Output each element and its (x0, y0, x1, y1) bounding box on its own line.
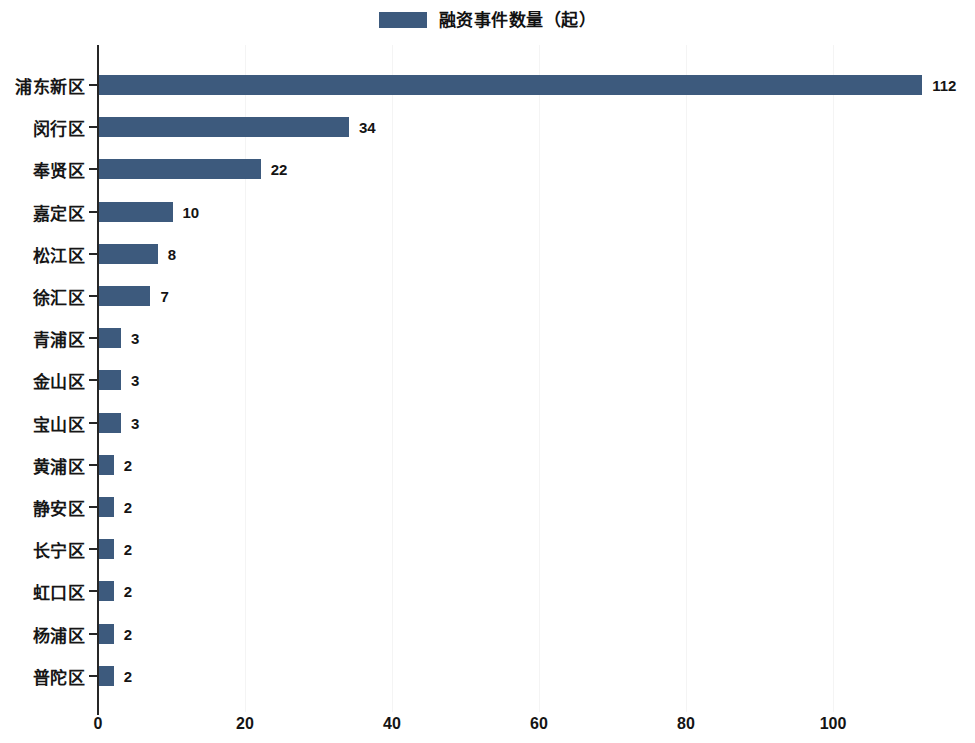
bar-row: 虹口区2 (0, 570, 975, 612)
bar[interactable] (99, 497, 114, 517)
bar-row: 静安区2 (0, 486, 975, 528)
y-axis-tick (89, 84, 97, 86)
bar[interactable] (99, 581, 114, 601)
x-axis-tick-label: 0 (94, 715, 103, 733)
bar[interactable] (99, 286, 150, 306)
y-axis-tick (89, 168, 97, 170)
y-axis-tick (89, 675, 97, 677)
category-label: 杨浦区 (33, 621, 86, 646)
x-axis-tick (97, 706, 99, 715)
bar[interactable] (99, 455, 114, 475)
bar-value-label: 3 (131, 330, 139, 347)
category-label: 金山区 (33, 368, 86, 393)
bar[interactable] (99, 159, 261, 179)
plot-area: 浦东新区112闵行区34奉贤区22嘉定区10松江区8徐汇区7青浦区3金山区3宝山… (0, 0, 975, 743)
y-axis-tick (89, 506, 97, 508)
bar[interactable] (99, 75, 922, 95)
category-label: 黄浦区 (33, 452, 86, 477)
bar[interactable] (99, 370, 121, 390)
bar-value-label: 10 (183, 203, 200, 220)
category-label: 嘉定区 (33, 199, 86, 224)
bar-value-label: 2 (124, 499, 132, 516)
bar-value-label: 112 (932, 77, 956, 94)
bar-row: 杨浦区2 (0, 613, 975, 655)
category-label: 闵行区 (33, 115, 86, 140)
category-label: 宝山区 (33, 410, 86, 435)
bar-value-label: 2 (124, 667, 132, 684)
bar-row: 徐汇区7 (0, 275, 975, 317)
bar-value-label: 22 (271, 161, 288, 178)
bar-row: 嘉定区10 (0, 191, 975, 233)
y-axis-tick (89, 253, 97, 255)
bar-row: 奉贤区22 (0, 148, 975, 190)
bar-row: 青浦区3 (0, 317, 975, 359)
bar[interactable] (99, 413, 121, 433)
category-label: 虹口区 (33, 579, 86, 604)
bar-row: 闵行区34 (0, 106, 975, 148)
y-axis-tick (89, 464, 97, 466)
x-axis-tick-label: 40 (383, 715, 401, 733)
category-label: 徐汇区 (33, 284, 86, 309)
bar-value-label: 2 (124, 583, 132, 600)
bar-value-label: 3 (131, 414, 139, 431)
bar-row: 松江区8 (0, 233, 975, 275)
bar[interactable] (99, 666, 114, 686)
y-axis-tick (89, 633, 97, 635)
category-label: 静安区 (33, 495, 86, 520)
x-axis-tick-label: 80 (677, 715, 695, 733)
bar[interactable] (99, 539, 114, 559)
bar-value-label: 2 (124, 456, 132, 473)
category-label: 奉贤区 (33, 157, 86, 182)
bar[interactable] (99, 244, 158, 264)
y-axis-tick (89, 337, 97, 339)
bar[interactable] (99, 328, 121, 348)
bar[interactable] (99, 202, 173, 222)
category-label: 长宁区 (33, 537, 86, 562)
x-axis-tick-label: 60 (530, 715, 548, 733)
y-axis-tick (89, 379, 97, 381)
y-axis-tick (89, 295, 97, 297)
x-axis-tick-label: 100 (820, 715, 847, 733)
bar-chart: 融资事件数量（起） 浦东新区112闵行区34奉贤区22嘉定区10松江区8徐汇区7… (0, 0, 975, 743)
y-axis-tick (89, 422, 97, 424)
bar[interactable] (99, 624, 114, 644)
category-label: 浦东新区 (15, 73, 85, 98)
y-axis-tick (89, 590, 97, 592)
bar-row: 长宁区2 (0, 528, 975, 570)
bar-value-label: 8 (168, 245, 176, 262)
bar-row: 浦东新区112 (0, 64, 975, 106)
bar-value-label: 2 (124, 625, 132, 642)
bar-value-label: 7 (160, 288, 168, 305)
x-axis-tick-label: 20 (236, 715, 254, 733)
bar-value-label: 34 (359, 119, 376, 136)
bar-row: 宝山区3 (0, 402, 975, 444)
bar-value-label: 3 (131, 372, 139, 389)
y-axis-tick (89, 548, 97, 550)
bar-row: 黄浦区2 (0, 444, 975, 486)
y-axis-tick (89, 126, 97, 128)
y-axis-tick (89, 211, 97, 213)
category-label: 松江区 (33, 241, 86, 266)
bar-value-label: 2 (124, 541, 132, 558)
category-label: 青浦区 (33, 326, 86, 351)
bar-row: 金山区3 (0, 359, 975, 401)
category-label: 普陀区 (33, 663, 86, 688)
bar[interactable] (99, 117, 349, 137)
bar-row: 普陀区2 (0, 655, 975, 697)
